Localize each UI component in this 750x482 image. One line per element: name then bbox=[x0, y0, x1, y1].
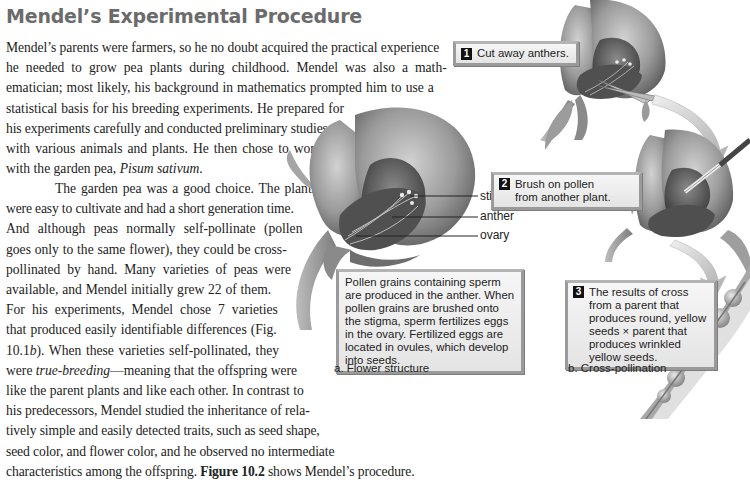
text-line: characteristics among the offspring. Fig… bbox=[6, 462, 415, 482]
step-3-text: The results of cross from a parent that … bbox=[589, 286, 709, 364]
text: ). When these varieties self-pollinated,… bbox=[37, 343, 279, 358]
step-2-text: Brush on pollen from another plant. bbox=[515, 178, 620, 204]
text-line: Mendel’s parents were farmers, so he no … bbox=[6, 38, 447, 58]
text-line: The garden pea was a good choice. The pl… bbox=[6, 179, 415, 199]
caption-flower-structure: a. Flower structure bbox=[334, 362, 429, 374]
text-line: he needed to grow pea plants during chil… bbox=[6, 58, 447, 78]
label-anther: anther bbox=[480, 209, 514, 223]
step-3-number: 3 bbox=[573, 286, 584, 298]
text-line: ematician; most likely, his background i… bbox=[6, 78, 447, 98]
text-line: his experiments carefully and conducted … bbox=[6, 119, 447, 139]
section-heading: Mendel’s Experimental Procedure bbox=[6, 5, 362, 27]
step-3-callout: 3 The results of cross from a parent tha… bbox=[565, 280, 717, 370]
step-arrow-icon bbox=[652, 95, 728, 172]
paragraph-1: Mendel’s parents were farmers, so he no … bbox=[6, 38, 447, 179]
text-line: And although peas normally self-pollinat… bbox=[6, 219, 415, 239]
text-line: his predecessors, Mendel studied the inh… bbox=[6, 401, 415, 421]
text-line: statistical basis for his breeding exper… bbox=[6, 99, 447, 119]
text-line: tively simple and easily detected traits… bbox=[6, 421, 415, 441]
step-1-callout: 1Cut away anthers. bbox=[453, 41, 579, 66]
species-name: Pisum sativum bbox=[120, 161, 200, 176]
text-line: seed color, and flower color, and he obs… bbox=[6, 442, 415, 462]
text-line: were easy to cultivate and had a short g… bbox=[6, 199, 415, 219]
text-line: with various animals and plants. He then… bbox=[6, 139, 447, 159]
step-2-number: 2 bbox=[499, 178, 510, 190]
fig-ref-letter: b bbox=[30, 343, 37, 358]
text: were bbox=[6, 363, 36, 378]
description-text: Pollen grains containing sperm are produ… bbox=[345, 276, 514, 366]
text: characteristics among the offspring. bbox=[6, 464, 200, 479]
step-1-text: Cut away anthers. bbox=[477, 47, 569, 59]
text-line: goes only to the same flower), they coul… bbox=[6, 240, 415, 260]
flower-structure-description: Pollen grains containing sperm are produ… bbox=[336, 269, 524, 374]
text: —meaning that the offspring were bbox=[110, 363, 297, 378]
text-line: like the parent plants and like each oth… bbox=[6, 381, 415, 401]
text: shows Mendel’s procedure. bbox=[265, 464, 415, 479]
text-line: with the garden pea, Pisum sativum. bbox=[6, 159, 447, 179]
step-1-number: 1 bbox=[461, 48, 472, 60]
flower-cut-anthers-drawing bbox=[540, 0, 666, 150]
label-ovary: ovary bbox=[480, 228, 509, 242]
text: . bbox=[199, 161, 202, 176]
text: with the garden pea, bbox=[6, 161, 120, 176]
caption-cross-pollination: b. Cross-pollination bbox=[568, 362, 666, 374]
text: 10.1 bbox=[6, 343, 30, 358]
figure-reference: Figure 10.2 bbox=[200, 464, 264, 479]
step-2-callout: 2 Brush on pollen from another plant. bbox=[491, 172, 642, 210]
key-term: true-breeding bbox=[36, 363, 110, 378]
